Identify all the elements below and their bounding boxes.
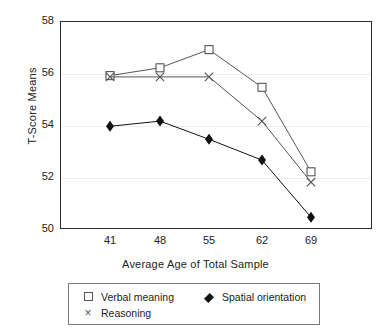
- x-tick-label-41: 41: [95, 234, 125, 246]
- y-tick-label-50: 50: [28, 222, 54, 234]
- chart-figure: T-Score Means 58 56 54 52 50 41 48 55 62…: [0, 0, 391, 333]
- y-axis-title: T-Score Means: [26, 26, 38, 186]
- filled-diamond-icon: [202, 291, 216, 303]
- y-tick-label-52: 52: [28, 170, 54, 182]
- gridline-52: [61, 178, 371, 179]
- y-tick-label-54: 54: [28, 118, 54, 130]
- open-square-icon: [81, 291, 95, 303]
- legend-item-spatial-orientation: Spatial orientation: [202, 291, 306, 303]
- x-tick-label-48: 48: [145, 234, 175, 246]
- gridline-56: [61, 74, 371, 75]
- y-tick-label-58: 58: [28, 14, 54, 26]
- x-tick-label-62: 62: [247, 234, 277, 246]
- legend-label-reasoning: Reasoning: [101, 307, 151, 319]
- plot-area: [60, 21, 372, 229]
- x-tick-label-55: 55: [194, 234, 224, 246]
- legend-label-spatial-orientation: Spatial orientation: [222, 291, 306, 303]
- x-axis-title: Average Age of Total Sample: [0, 258, 391, 270]
- chart-legend: Verbal meaning × Reasoning Spatial orien…: [68, 283, 320, 325]
- gridline-54: [61, 126, 371, 127]
- legend-item-verbal-meaning: Verbal meaning: [81, 291, 174, 303]
- x-tick-label-69: 69: [296, 234, 326, 246]
- legend-item-reasoning: × Reasoning: [81, 307, 151, 319]
- x-cross-icon: ×: [81, 308, 95, 318]
- y-tick-label-56: 56: [28, 66, 54, 78]
- legend-label-verbal-meaning: Verbal meaning: [101, 291, 174, 303]
